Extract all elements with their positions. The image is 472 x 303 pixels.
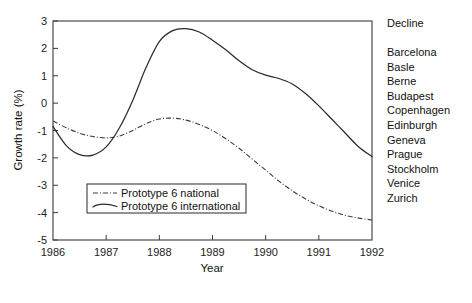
x-tick-label: 1987 <box>94 246 118 258</box>
chart-canvas: -5-4-3-2-10123 1986198719881989199019911… <box>0 0 472 303</box>
y-tick-label: 0 <box>41 97 47 109</box>
y-tick-label: 1 <box>41 70 47 82</box>
y-tick-label: -2 <box>37 152 47 164</box>
chart-legend: Prototype 6 national Prototype 6 interna… <box>87 184 246 213</box>
side-list-item: Zurich <box>387 192 418 204</box>
x-tick-label: 1991 <box>307 246 331 258</box>
y-tick-label: -5 <box>37 234 47 246</box>
side-list-item: Venice <box>387 177 420 189</box>
y-tick-label: -4 <box>37 207 47 219</box>
x-tick-label: 1989 <box>200 246 224 258</box>
side-annotation-list: Decline BarcelonaBasleBerneBudapestCopen… <box>387 17 450 204</box>
side-list-item: Copenhagen <box>387 104 450 116</box>
side-list-item: Berne <box>387 75 416 87</box>
x-tick-label: 1988 <box>147 246 171 258</box>
x-axis-ticks <box>106 235 319 240</box>
side-list-item: Geneva <box>387 134 426 146</box>
y-tick-label: 2 <box>41 42 47 54</box>
side-list-item: Barcelona <box>387 46 437 58</box>
x-tick-label: 1992 <box>360 246 384 258</box>
growth-rate-line-chart: -5-4-3-2-10123 1986198719881989199019911… <box>0 0 472 303</box>
side-list-item: Prague <box>387 148 422 160</box>
side-list-item: Stockholm <box>387 163 438 175</box>
legend-label-national: Prototype 6 national <box>121 187 219 199</box>
side-list-title: Decline <box>387 17 424 29</box>
y-tick-label: 3 <box>41 15 47 27</box>
side-list-items: BarcelonaBasleBerneBudapestCopenhagenEdi… <box>387 46 450 204</box>
x-axis-title: Year <box>200 262 223 274</box>
y-axis-tick-labels: -5-4-3-2-10123 <box>37 15 47 246</box>
side-list-item: Edinburgh <box>387 119 437 131</box>
side-list-item: Basle <box>387 61 415 73</box>
legend-label-international: Prototype 6 international <box>121 200 240 212</box>
side-list-item: Budapest <box>387 90 433 102</box>
y-tick-label: -3 <box>37 179 47 191</box>
x-axis-tick-labels: 1986198719881989199019911992 <box>41 246 384 258</box>
x-tick-label: 1986 <box>41 246 65 258</box>
y-tick-label: -1 <box>37 125 47 137</box>
y-axis-title: Growth rate (%) <box>12 89 24 170</box>
chart-figure: -5-4-3-2-10123 1986198719881989199019911… <box>0 0 472 303</box>
x-tick-label: 1990 <box>253 246 277 258</box>
